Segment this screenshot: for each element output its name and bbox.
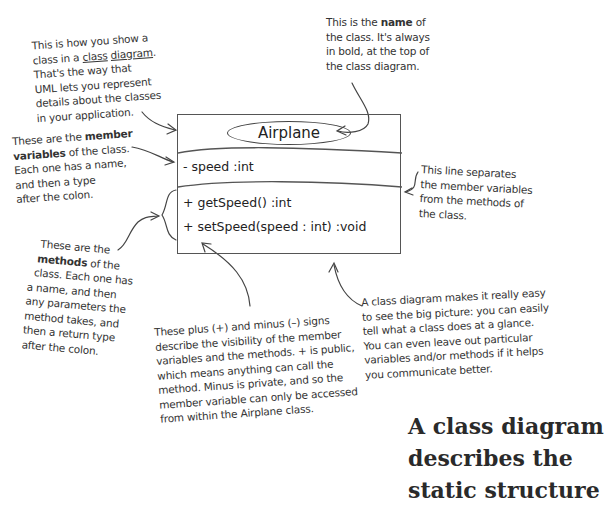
note-class-name: This is the name of the class. It's alwa…: [326, 15, 430, 73]
name-divider: [178, 148, 402, 153]
arrow-member-variables: [132, 147, 173, 162]
headline: A class diagram describes the static str…: [408, 410, 606, 509]
headline-line: describes the: [408, 442, 606, 474]
attribute-speed: - speed :int: [183, 159, 254, 174]
underlined-text: diagram: [110, 46, 153, 61]
methods-brace: [162, 190, 176, 240]
attribute-method-divider: [178, 182, 402, 187]
method-getspeed: + getSpeed() :int: [183, 195, 291, 210]
note-member-variables: These are the member variables of the cl…: [12, 126, 137, 207]
note-methods: These are the methods of the class. Each…: [21, 236, 136, 361]
note-line: This is the name of: [326, 15, 430, 30]
uml-class-box: Airplane - speed :int + getSpeed() :int …: [177, 114, 401, 254]
headline-line: A class diagram: [408, 410, 606, 442]
note-separator: This line separates the member variables…: [419, 162, 534, 226]
note-class-diagram: This is how you show a class in a class …: [31, 30, 162, 126]
note-line: in bold, at the top of: [326, 44, 430, 59]
method-setspeed: + setSpeed(speed : int) :void: [183, 219, 366, 234]
note-line: the class diagram.: [326, 59, 430, 74]
note-line: the class. It's always: [326, 30, 430, 45]
section-dividers: [178, 115, 402, 255]
headline-line: static structure of: [408, 474, 606, 509]
note-visibility: These plus (+) and minus (–) signs descr…: [154, 311, 360, 426]
underlined-text: class: [82, 49, 108, 63]
arrow-separator: [406, 172, 418, 192]
note-big-picture: A class diagram makes it really easy to …: [361, 285, 552, 382]
